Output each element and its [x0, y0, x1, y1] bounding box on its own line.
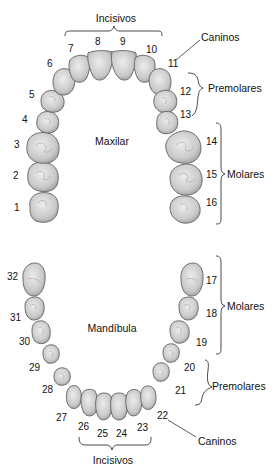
tooth-number-8: 8: [95, 36, 101, 47]
tooth-26: [81, 389, 97, 416]
tooth-number-15: 15: [206, 169, 218, 180]
label-molars-upper: Molares: [227, 168, 264, 180]
tooth-number-27: 27: [56, 412, 68, 423]
label-mandible: Mandíbula: [87, 322, 136, 334]
tooth-24: [111, 393, 128, 420]
tooth-number-14: 14: [206, 136, 218, 147]
tooth-27: [66, 386, 81, 409]
tooth-number-11: 11: [168, 58, 179, 69]
tooth-number-18: 18: [206, 308, 218, 319]
tooth-3: [27, 133, 59, 164]
tooth-31: [25, 297, 44, 320]
brace-premolars-lower: [195, 360, 212, 405]
tooth-number-25: 25: [97, 428, 109, 439]
label-canines-upper: Caninos: [201, 31, 240, 43]
tooth-2: [28, 162, 59, 192]
tooth-number-9: 9: [120, 36, 126, 47]
tooth-number-17: 17: [206, 275, 218, 286]
tooth-number-28: 28: [42, 384, 54, 395]
brace-molars-lower: [216, 256, 225, 354]
tooth-17: [181, 263, 203, 296]
tooth-23: [126, 390, 142, 416]
tooth-number-20: 20: [184, 362, 196, 373]
tooth-16: [170, 196, 200, 223]
tooth-number-16: 16: [206, 197, 218, 208]
tooth-number-32: 32: [7, 271, 19, 282]
label-canines-lower: Caninos: [198, 435, 237, 447]
brace-incisors-upper: [65, 26, 162, 36]
tooth-21: [153, 363, 169, 381]
tooth-4: [37, 111, 59, 132]
tooth-9: [111, 51, 136, 80]
tooth-number-6: 6: [47, 58, 53, 69]
tooth-number-26: 26: [78, 421, 90, 432]
tooth-number-22: 22: [157, 410, 169, 421]
tooth-8: [88, 51, 113, 80]
tooth-15: [170, 164, 202, 195]
tooth-12: [154, 90, 177, 112]
tooth-number-4: 4: [22, 114, 28, 125]
label-premolars-lower: Premolares: [212, 380, 266, 392]
label-incisors-upper: Incisivos: [96, 12, 136, 24]
dental-chart: 1 2 3 4 5 6 7 8 9 10 11 12 13 14 15 16 I…: [0, 0, 280, 474]
tooth-number-2: 2: [13, 170, 19, 181]
label-premolars-upper: Premolares: [208, 82, 262, 94]
tooth-25: [96, 393, 112, 420]
tooth-20: [163, 344, 179, 362]
tooth-number-13: 13: [180, 109, 192, 120]
label-maxilla: Maxilar: [95, 135, 129, 147]
tooth-number-23: 23: [137, 422, 149, 433]
tooth-22: [141, 386, 156, 410]
tooth-14: [166, 131, 201, 163]
tooth-7: [69, 55, 90, 82]
tooth-13: [157, 111, 178, 133]
brace-molars-upper: [216, 123, 225, 224]
tooth-number-24: 24: [116, 428, 128, 439]
mandible-arch: [23, 263, 203, 420]
tooth-number-5: 5: [29, 89, 35, 100]
tooth-32: [23, 263, 45, 296]
leader-canines-lower: [168, 420, 196, 437]
label-molars-lower: Molares: [227, 300, 264, 312]
tooth-number-7: 7: [68, 43, 74, 54]
tooth-number-3: 3: [14, 139, 20, 150]
tooth-1: [30, 193, 59, 223]
tooth-18: [179, 297, 198, 320]
tooth-number-12: 12: [180, 86, 192, 97]
leader-canines-upper: [176, 40, 200, 60]
brace-incisors-lower: [79, 437, 151, 450]
tooth-29: [43, 345, 59, 363]
tooth-number-29: 29: [29, 362, 41, 373]
tooth-number-19: 19: [196, 337, 208, 348]
tooth-number-31: 31: [10, 312, 22, 323]
tooth-number-30: 30: [19, 336, 31, 347]
tooth-19: [170, 321, 189, 343]
tooth-number-21: 21: [175, 385, 187, 396]
tooth-number-1: 1: [14, 202, 20, 213]
tooth-30: [32, 321, 50, 344]
tooth-28: [54, 368, 70, 385]
label-incisors-lower: Incisivos: [93, 454, 133, 466]
tooth-number-10: 10: [146, 44, 158, 55]
